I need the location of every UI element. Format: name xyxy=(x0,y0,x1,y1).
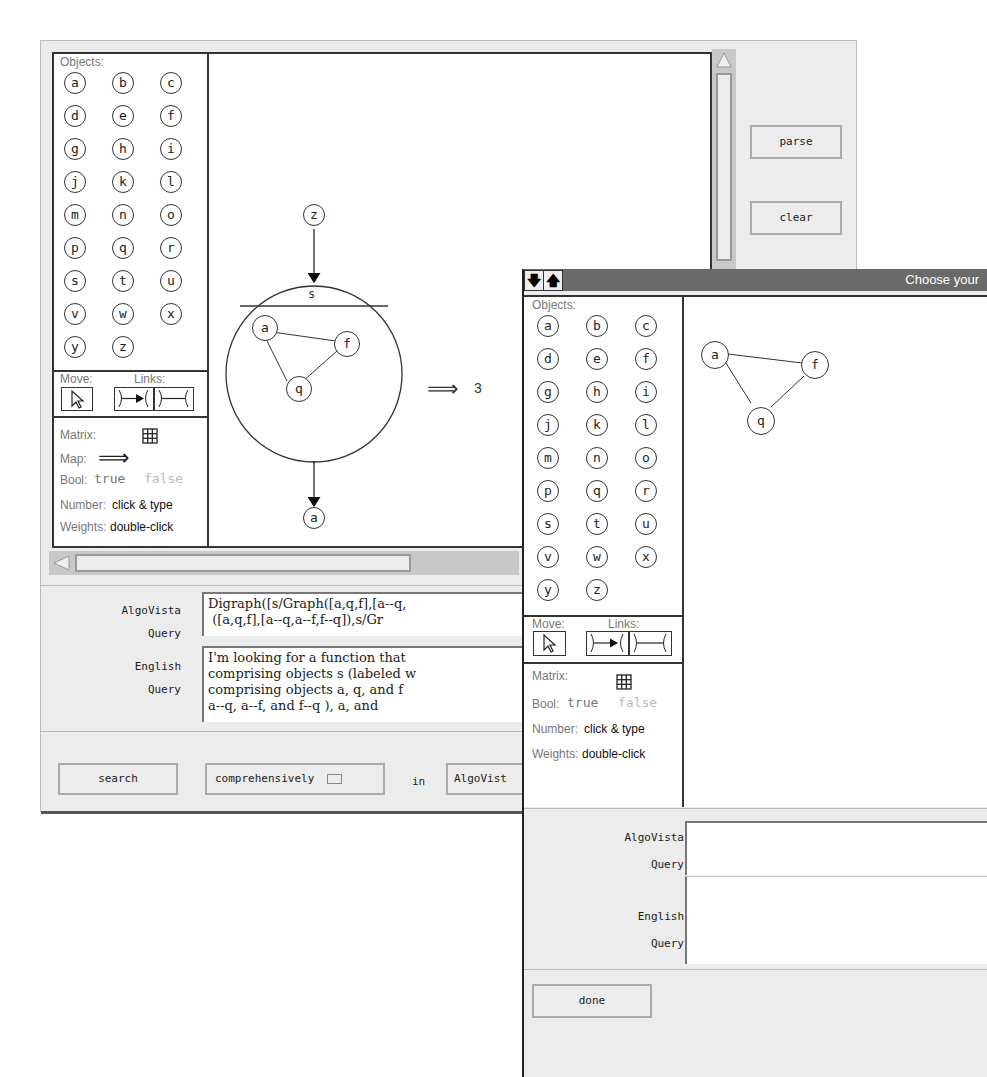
vertical-scrollbar[interactable] xyxy=(712,49,736,269)
clear-button[interactable]: clear xyxy=(750,201,842,235)
matrix-icon[interactable] xyxy=(142,428,158,444)
object-r[interactable]: r xyxy=(160,237,182,259)
object-z[interactable]: z xyxy=(112,336,134,358)
bool-false[interactable]: false xyxy=(144,471,183,486)
object-t[interactable]: t xyxy=(112,270,134,292)
object-h[interactable]: h xyxy=(112,138,134,160)
object-o[interactable]: o xyxy=(635,447,657,469)
object-m[interactable]: m xyxy=(64,204,86,226)
directed-link-tool-button[interactable] xyxy=(586,631,629,656)
node-q[interactable]: q xyxy=(747,407,775,435)
object-a[interactable]: a xyxy=(64,72,86,94)
move-tool-button[interactable] xyxy=(61,387,93,411)
bool-false[interactable]: false xyxy=(618,695,657,710)
object-r[interactable]: r xyxy=(635,480,657,502)
object-y[interactable]: y xyxy=(64,336,86,358)
node-f[interactable]: f xyxy=(334,331,360,357)
object-v[interactable]: v xyxy=(64,303,86,325)
english-query-input[interactable]: I'm looking for a function that comprisi… xyxy=(202,646,524,722)
object-k[interactable]: k xyxy=(586,414,608,436)
directed-link-tool-button[interactable] xyxy=(114,387,154,411)
object-m[interactable]: m xyxy=(537,447,559,469)
scroll-up-icon[interactable] xyxy=(712,49,736,71)
object-l[interactable]: l xyxy=(160,171,182,193)
node-a[interactable]: a xyxy=(252,315,278,341)
object-e[interactable]: e xyxy=(586,348,608,370)
dialog-graph-canvas[interactable]: a f q xyxy=(684,297,987,807)
node-q[interactable]: q xyxy=(286,376,312,402)
object-b[interactable]: b xyxy=(586,315,608,337)
object-g[interactable]: g xyxy=(537,381,559,403)
node-z[interactable]: z xyxy=(303,204,325,226)
object-b[interactable]: b xyxy=(112,72,134,94)
object-x[interactable]: x xyxy=(160,303,182,325)
object-u[interactable]: u xyxy=(160,270,182,292)
node-a-bottom[interactable]: a xyxy=(303,507,325,529)
object-d[interactable]: d xyxy=(537,348,559,370)
arrow-down-icon[interactable]: 🡇 xyxy=(524,270,544,291)
horizontal-scrollbar[interactable] xyxy=(49,551,519,575)
in-label: in xyxy=(412,775,425,788)
object-u[interactable]: u xyxy=(635,513,657,535)
object-n[interactable]: n xyxy=(112,204,134,226)
search-button[interactable]: search xyxy=(58,763,178,795)
object-e[interactable]: e xyxy=(112,105,134,127)
object-g[interactable]: g xyxy=(64,138,86,160)
matrix-icon[interactable] xyxy=(616,674,632,690)
object-n[interactable]: n xyxy=(586,447,608,469)
parse-button[interactable]: parse xyxy=(750,125,842,159)
object-q[interactable]: q xyxy=(586,480,608,502)
scroll-left-icon[interactable] xyxy=(49,551,73,575)
object-s[interactable]: s xyxy=(537,513,559,535)
object-f[interactable]: f xyxy=(160,105,182,127)
object-i[interactable]: i xyxy=(635,381,657,403)
algovista-query-input[interactable]: Digraph([s/Graph([a,q,f],[a--q, ([a,q,f]… xyxy=(202,592,524,636)
object-p[interactable]: p xyxy=(537,480,559,502)
move-tool-button[interactable] xyxy=(533,631,566,656)
map-arrow-icon[interactable]: ⟹ xyxy=(98,445,130,471)
object-j[interactable]: j xyxy=(64,171,86,193)
object-w[interactable]: w xyxy=(112,303,134,325)
undirected-link-tool-button[interactable] xyxy=(629,631,672,656)
object-h[interactable]: h xyxy=(586,381,608,403)
object-q[interactable]: q xyxy=(112,237,134,259)
dialog-titlebar[interactable]: 🡇 🡅 Choose your xyxy=(524,269,987,291)
object-i[interactable]: i xyxy=(160,138,182,160)
object-j[interactable]: j xyxy=(537,414,559,436)
search-mode-select[interactable]: comprehensively xyxy=(205,763,385,795)
object-o[interactable]: o xyxy=(160,204,182,226)
object-t[interactable]: t xyxy=(586,513,608,535)
object-c[interactable]: c xyxy=(635,315,657,337)
label-line: English xyxy=(584,910,684,923)
object-c[interactable]: c xyxy=(160,72,182,94)
object-w[interactable]: w xyxy=(586,546,608,568)
object-p[interactable]: p xyxy=(64,237,86,259)
bool-true[interactable]: true xyxy=(94,471,125,486)
object-d[interactable]: d xyxy=(64,105,86,127)
node-a[interactable]: a xyxy=(701,341,729,369)
done-button[interactable]: done xyxy=(532,984,652,1018)
object-k[interactable]: k xyxy=(112,171,134,193)
object-z[interactable]: z xyxy=(586,579,608,601)
object-y[interactable]: y xyxy=(537,579,559,601)
vertical-scroll-thumb[interactable] xyxy=(716,73,732,261)
divider xyxy=(524,662,682,664)
object-v[interactable]: v xyxy=(537,546,559,568)
object-s[interactable]: s xyxy=(64,270,86,292)
algovista-query-input[interactable] xyxy=(685,821,987,875)
node-f[interactable]: f xyxy=(801,351,829,379)
bool-true[interactable]: true xyxy=(567,695,598,710)
number-label: Number: xyxy=(60,498,106,512)
english-query-input[interactable] xyxy=(685,876,987,964)
arrow-up-icon[interactable]: 🡅 xyxy=(543,270,563,291)
search-target-select[interactable]: AlgoVist xyxy=(446,763,524,795)
dialog-window: 🡇 🡅 Choose your Objects: abcdefghijklmno… xyxy=(522,269,987,1077)
horizontal-scroll-thumb[interactable] xyxy=(75,554,411,572)
object-x[interactable]: x xyxy=(635,546,657,568)
object-f[interactable]: f xyxy=(635,348,657,370)
undirected-link-tool-button[interactable] xyxy=(154,387,194,411)
object-l[interactable]: l xyxy=(635,414,657,436)
object-palette: Objects: abcdefghijklmnopqrstuvwxyz Move… xyxy=(524,297,684,807)
map-result[interactable]: 3 xyxy=(474,380,482,396)
object-a[interactable]: a xyxy=(537,315,559,337)
